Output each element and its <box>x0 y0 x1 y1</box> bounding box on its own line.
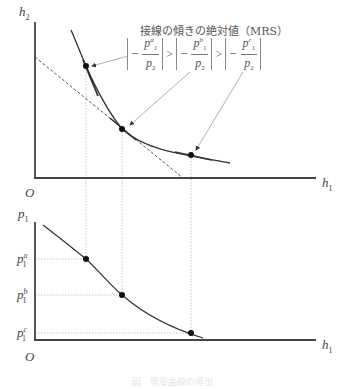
mrs-term-a: − pa1 p2 <box>127 38 163 70</box>
demand-point-a <box>83 256 89 262</box>
x-axis-label-h1-top: h1 <box>322 176 333 193</box>
figure-caption: 図 需要曲線の導出 <box>0 375 344 388</box>
gt-symbol: > <box>215 47 222 62</box>
y-axis-label-p1: p1 <box>18 207 29 224</box>
arrow-to-c <box>196 72 243 150</box>
point-c <box>188 152 194 158</box>
mrs-term-b: − pb1 p2 <box>176 38 212 70</box>
mrs-inequality: − pa1 p2 > − pb1 p2 > − pc1 p2 <box>127 38 261 70</box>
demand-point-b <box>119 292 125 298</box>
price-label-p1a: pa1 <box>17 252 27 269</box>
budget-line <box>35 57 183 178</box>
y-axis-label-h2: h2 <box>19 5 30 22</box>
point-b <box>119 126 125 132</box>
mrs-term-c: − pc1 p2 <box>225 38 261 70</box>
x-axis-label-h1-bottom: h1 <box>322 338 333 355</box>
demand-point-c <box>188 330 194 336</box>
price-label-p1c: pc1 <box>17 326 26 343</box>
origin-label-bottom: O <box>25 350 34 363</box>
arrow-to-a <box>92 56 128 66</box>
mrs-annotation-title: 接線の傾きの絶対値（MRS） <box>140 22 288 38</box>
origin-label-top: O <box>25 186 34 199</box>
demand-curve <box>43 225 203 338</box>
point-a <box>83 63 89 69</box>
arrow-to-b <box>130 72 190 125</box>
gt-symbol: > <box>166 47 173 62</box>
bottom-chart <box>34 222 316 341</box>
price-label-p1b: pb1 <box>17 288 27 305</box>
